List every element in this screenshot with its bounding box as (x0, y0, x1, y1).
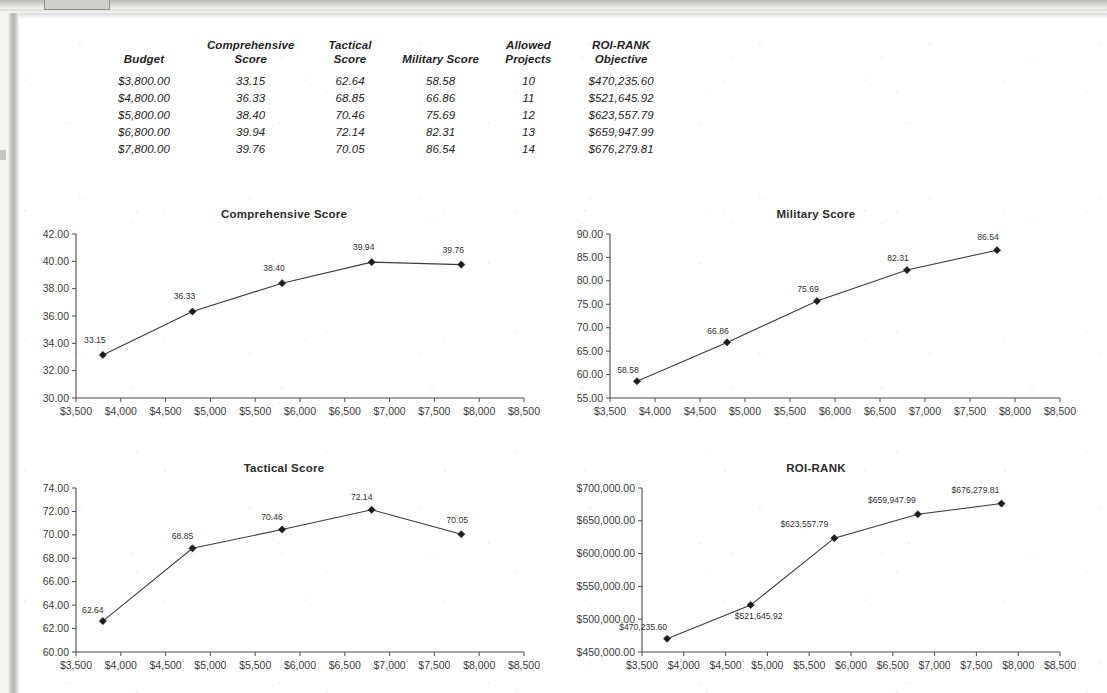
column-header-line: Tactical (314, 38, 385, 52)
y-axis-tick-label: 55.00 (577, 392, 603, 404)
y-axis-tick-label: $600,000.00 (577, 547, 636, 559)
scan-edge-left (8, 9, 19, 693)
data-point-marker (633, 378, 640, 385)
x-axis-tick-label: $6,500 (864, 405, 896, 417)
chart-military-score: Military Score 55.0060.0065.0070.0075.00… (552, 208, 1080, 440)
x-axis-tick-label: $7,500 (960, 659, 992, 671)
x-axis-tick-label: $5,000 (194, 405, 226, 417)
table-cell: $470,235.60 (567, 73, 675, 90)
y-axis-tick-label: 60.00 (43, 646, 69, 658)
column-header-line: Budget (101, 52, 187, 66)
data-point-label: 68.85 (172, 531, 194, 541)
data-point-label: 82.31 (887, 253, 909, 263)
table-cell: 38.40 (193, 107, 309, 124)
data-point-marker (993, 247, 1000, 254)
y-axis-tick-label: $700,000.00 (577, 482, 636, 494)
x-axis-tick-label: $7,500 (954, 405, 986, 417)
y-axis-tick-label: 30.00 (43, 392, 69, 404)
scan-noise-band (19, 13, 1107, 19)
x-axis-tick-label: $6,000 (835, 659, 867, 671)
data-point-marker (368, 259, 375, 266)
table-cell: 14 (490, 141, 568, 158)
data-point-marker (189, 308, 196, 315)
column-header-military-score: Military Score (392, 38, 490, 73)
y-axis-tick-label: 85.00 (577, 251, 603, 263)
x-axis-tick-label: $8,500 (1044, 659, 1076, 671)
scan-edge-notch (0, 150, 6, 160)
x-axis-tick-label: $8,000 (463, 405, 495, 417)
table-cell: 12 (490, 107, 568, 124)
data-point-marker (99, 351, 106, 358)
table-cell: 70.46 (308, 107, 391, 124)
x-axis-tick-label: $5,000 (751, 659, 783, 671)
table-cell: 36.33 (193, 90, 309, 107)
x-axis-tick-label: $4,500 (684, 405, 716, 417)
column-header-comprehensive-score: ComprehensiveScore (193, 38, 309, 73)
y-axis-tick-label: 65.00 (577, 345, 603, 357)
table-cell: 72.14 (308, 124, 391, 141)
y-axis-tick-label: 42.00 (43, 228, 69, 240)
table-cell: 39.76 (193, 141, 309, 158)
data-point-marker (903, 266, 910, 273)
table-cell: 75.69 (392, 107, 490, 124)
table-cell: 62.64 (308, 73, 391, 90)
table-cell: $521,645.92 (567, 90, 675, 107)
data-point-label: $521,645.92 (735, 611, 783, 621)
data-point-marker (723, 339, 730, 346)
data-point-marker (458, 531, 465, 538)
scan-binder-tab (44, 0, 110, 10)
data-point-marker (813, 297, 820, 304)
x-axis-tick-label: $4,500 (150, 405, 182, 417)
chart-comprehensive-score: Comprehensive Score 30.0032.0034.0036.00… (24, 208, 544, 440)
y-axis-tick-label: $650,000.00 (577, 514, 636, 526)
table-cell: 58.58 (392, 73, 490, 90)
x-axis-tick-label: $6,000 (819, 405, 851, 417)
column-header-roi-rank-objective: ROI-RANKObjective (567, 38, 675, 73)
x-axis-tick-label: $4,000 (639, 405, 671, 417)
data-point-label: 75.69 (797, 284, 819, 294)
summary-table: Budget ComprehensiveScore TacticalScore … (95, 38, 675, 158)
scan-edge-top (0, 0, 1107, 9)
data-point-label: 38.40 (263, 263, 285, 273)
x-axis-tick-label: $7,000 (374, 659, 406, 671)
chart-plot-area: 60.0062.0064.0066.0068.0070.0072.0074.00… (24, 476, 544, 688)
column-header-budget: Budget (95, 38, 193, 73)
data-point-label: 36.33 (174, 291, 196, 301)
table-cell: 11 (490, 90, 568, 107)
y-axis-tick-label: 40.00 (43, 255, 69, 267)
x-axis-tick-label: $3,500 (60, 405, 92, 417)
x-axis-tick-label: $4,000 (105, 405, 137, 417)
table-header: Budget ComprehensiveScore TacticalScore … (95, 38, 675, 73)
data-point-label: 70.05 (447, 515, 469, 525)
table-body: $3,800.0033.1562.6458.5810$470,235.60$4,… (95, 73, 675, 158)
x-axis-tick-label: $7,000 (909, 405, 941, 417)
data-point-label: 86.54 (977, 232, 999, 242)
column-header-tactical-score: TacticalScore (308, 38, 391, 73)
data-point-label: $470,235.60 (619, 622, 667, 632)
y-axis-tick-label: 34.00 (43, 337, 69, 349)
chart-roi-rank: ROI-RANK $450,000.00$500,000.00$550,000.… (552, 462, 1080, 690)
data-point-label: $659,947.99 (868, 495, 916, 505)
y-axis-tick-label: 80.00 (577, 274, 603, 286)
column-header-line: ROI-RANK (573, 38, 669, 52)
y-axis-tick-label: 66.00 (43, 575, 69, 587)
data-point-marker (914, 511, 921, 518)
column-header-line: Score (199, 52, 303, 66)
chart-plot-area: 30.0032.0034.0036.0038.0040.0042.00$3,50… (24, 222, 544, 436)
x-axis-tick-label: $5,500 (239, 659, 271, 671)
table-cell: 33.15 (193, 73, 309, 90)
chart-plot-area: $450,000.00$500,000.00$550,000.00$600,00… (552, 476, 1080, 688)
column-header-line: Objective (573, 52, 669, 66)
table-header-row: Budget ComprehensiveScore TacticalScore … (95, 38, 675, 73)
x-axis-tick-label: $8,000 (999, 405, 1031, 417)
x-axis-tick-label: $7,500 (418, 405, 450, 417)
x-axis-tick-label: $5,500 (239, 405, 271, 417)
data-point-marker (998, 500, 1005, 507)
data-point-label: 58.58 (617, 365, 639, 375)
x-axis-tick-label: $3,500 (594, 405, 626, 417)
table-cell: 68.85 (308, 90, 391, 107)
data-point-label: 39.76 (443, 245, 465, 255)
x-axis-tick-label: $6,000 (284, 659, 316, 671)
data-point-label: $676,279.81 (952, 485, 1000, 495)
table-cell: $676,279.81 (567, 141, 675, 158)
